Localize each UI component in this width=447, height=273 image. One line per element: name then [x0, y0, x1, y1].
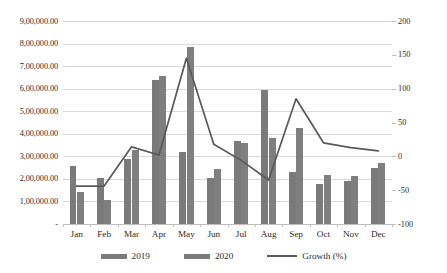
- bar-2020-Dec: [378, 163, 385, 224]
- bar-2020-Feb: [104, 200, 111, 224]
- gridline: [63, 44, 392, 45]
- bar-2019-Mar: [124, 159, 131, 224]
- bar-2020-Sep: [296, 128, 303, 224]
- gridline: [63, 21, 392, 22]
- x-axis-tickmark: [145, 224, 146, 227]
- right-axis-tickmark: [392, 156, 396, 157]
- x-axis-tickmark: [337, 224, 338, 227]
- x-axis-tickmark: [200, 224, 201, 227]
- gridline: [63, 179, 392, 180]
- bar-2019-Feb: [97, 178, 104, 224]
- bar-2020-Jan: [77, 192, 84, 224]
- right-axis-tick-label: 100: [398, 84, 443, 93]
- right-axis-tickmark: [392, 21, 396, 22]
- bar-2020-Mar: [132, 150, 139, 224]
- legend-item-2019[interactable]: 2019: [101, 251, 150, 262]
- bar-2019-Aug: [261, 90, 268, 224]
- left-axis-tick-label: 2,00,000.00: [0, 174, 58, 183]
- gridline: [63, 156, 392, 157]
- legend-item-2020[interactable]: 2020: [184, 251, 233, 262]
- bar-2019-Jul: [234, 141, 241, 224]
- right-axis-tick-label: -50: [398, 186, 443, 195]
- bar-2019-Jan: [70, 166, 77, 224]
- legend-item-growth[interactable]: Growth (%): [267, 251, 346, 262]
- left-axis-tick-label: 3,00,000.00: [0, 152, 58, 161]
- legend-label-growth: Growth (%): [302, 251, 346, 262]
- right-axis-tickmark: [392, 89, 396, 90]
- x-axis-tickmark: [173, 224, 174, 227]
- bar-2020-Oct: [324, 175, 331, 224]
- bar-2020-Aug: [269, 138, 276, 224]
- x-axis-tickmark: [282, 224, 283, 227]
- bar-2020-Apr: [159, 76, 166, 224]
- right-axis-tick-label: 50: [398, 118, 443, 127]
- bar-2019-Nov: [344, 181, 351, 224]
- right-axis-tickmark: [392, 123, 396, 124]
- legend-swatch-growth: [267, 255, 297, 257]
- right-axis-tick-label: 150: [398, 50, 443, 59]
- x-axis-tickmark: [118, 224, 119, 227]
- bar-2019-Dec: [371, 168, 378, 224]
- bar-2020-May: [187, 47, 194, 224]
- x-axis-tickmark: [90, 224, 91, 227]
- x-axis-tickmark: [365, 224, 366, 227]
- gridline: [63, 201, 392, 202]
- left-axis-tick-label: -: [0, 220, 58, 229]
- bar-2020-Jul: [241, 143, 248, 224]
- x-axis-tickmark: [228, 224, 229, 227]
- right-axis-tickmark: [392, 224, 396, 225]
- growth-line-path: [77, 58, 379, 186]
- bar-2019-Jun: [207, 178, 214, 224]
- gridline: [63, 111, 392, 112]
- x-axis-tick-label-Dec: Dec: [358, 229, 398, 240]
- left-axis-tick-label: 5,00,000.00: [0, 107, 58, 116]
- right-axis-tick-label: -100: [398, 220, 443, 229]
- legend-swatch-2020: [184, 254, 210, 259]
- growth-line-series: [63, 21, 392, 224]
- gridline: [63, 134, 392, 135]
- chart-legend: 2019 2020 Growth (%): [0, 248, 447, 264]
- x-axis-tickmark: [255, 224, 256, 227]
- legend-label-2019: 2019: [132, 251, 150, 262]
- left-axis-tick-label: 7,00,000.00: [0, 62, 58, 71]
- plot-area: [63, 21, 392, 224]
- legend-label-2020: 2020: [215, 251, 233, 262]
- left-axis-tick-label: 8,00,000.00: [0, 39, 58, 48]
- right-axis-tick-label: 0: [398, 152, 443, 161]
- bar-2020-Jun: [214, 169, 221, 224]
- x-axis-tickmark: [310, 224, 311, 227]
- legend-swatch-2019: [101, 254, 127, 259]
- bar-2020-Nov: [351, 176, 358, 224]
- bar-2019-Oct: [316, 184, 323, 224]
- right-axis-tickmark: [392, 55, 396, 56]
- right-axis-tickmark: [392, 190, 396, 191]
- left-axis-tick-label: 1,00,000.00: [0, 197, 58, 206]
- left-axis-tick-label: 4,00,000.00: [0, 129, 58, 138]
- right-axis-tick-label: 200: [398, 17, 443, 26]
- left-axis-tick-label: 9,00,000.00: [0, 17, 58, 26]
- chart-container: -1,00,000.002,00,000.003,00,000.004,00,0…: [0, 0, 447, 273]
- gridline: [63, 89, 392, 90]
- bar-2019-May: [179, 152, 186, 224]
- left-axis-tick-label: 6,00,000.00: [0, 84, 58, 93]
- bar-2019-Apr: [152, 80, 159, 224]
- bar-2019-Sep: [289, 172, 296, 224]
- x-axis-tickmark: [63, 224, 64, 227]
- gridline: [63, 66, 392, 67]
